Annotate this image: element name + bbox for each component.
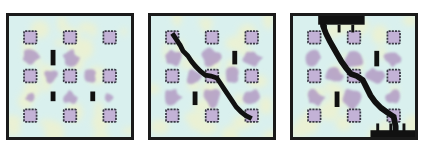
highlight-patch [78, 22, 94, 32]
panel-1-canvas [9, 16, 131, 137]
microcrack-bar [51, 92, 56, 102]
highlight-patch [259, 96, 273, 114]
highlight-patch [57, 16, 66, 32]
inclusion-square [166, 109, 179, 122]
edge-break-top [318, 16, 364, 25]
crack-propagation-figure [0, 0, 424, 153]
panel-3-canvas [293, 16, 415, 137]
panel-1-initial-microcracks [6, 13, 134, 140]
highlight-patch [225, 36, 245, 50]
inclusion-square [245, 70, 258, 83]
highlight-patch [120, 28, 127, 35]
inclusion-square [308, 31, 321, 44]
microcrack-bar [90, 92, 95, 102]
inclusion-square [24, 109, 37, 122]
microcrack-bar [232, 51, 237, 65]
panel-2-crack-coalescence [148, 13, 276, 140]
inclusion-square [166, 70, 179, 83]
highlight-patch [372, 25, 389, 45]
inclusion-square [308, 109, 321, 122]
edge-break-tick [338, 25, 341, 33]
inclusion-square [348, 109, 361, 122]
damage-blob [84, 69, 96, 82]
panel-2-canvas [151, 16, 273, 137]
edge-break-tick [403, 123, 406, 131]
microcrack-bar [374, 51, 379, 66]
inclusion-square [387, 31, 400, 44]
edge-break-tick [376, 123, 379, 131]
edge-break-tick [351, 25, 354, 33]
microcrack-bar [335, 92, 340, 107]
microcrack-bar [193, 92, 198, 106]
inclusion-square [24, 31, 37, 44]
inclusion-square [206, 109, 219, 122]
inclusion-square [103, 70, 116, 83]
panel-3-through-crack [290, 13, 418, 140]
inclusion-square [308, 70, 321, 83]
edge-break-bottom [370, 130, 415, 137]
inclusion-square [387, 70, 400, 83]
inclusion-square [348, 31, 361, 44]
highlight-patch [45, 119, 54, 127]
inclusion-square [64, 109, 77, 122]
inclusion-square [64, 31, 77, 44]
inclusion-square [64, 70, 77, 83]
highlight-patch [197, 121, 218, 135]
inclusion-square [103, 31, 116, 44]
damage-blob [226, 67, 239, 83]
inclusion-square [24, 70, 37, 83]
inclusion-square [103, 109, 116, 122]
edge-break-tick [389, 123, 392, 131]
highlight-patch [198, 18, 213, 26]
inclusion-square [245, 31, 258, 44]
inclusion-square [206, 31, 219, 44]
panel-row [0, 0, 424, 153]
highlight-patch [55, 39, 64, 46]
edge-break-tick [324, 25, 327, 33]
microcrack-bar [51, 50, 56, 65]
